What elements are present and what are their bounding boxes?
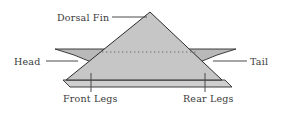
label-rear-legs: Rear Legs bbox=[183, 93, 234, 104]
underside-plank-shape bbox=[63, 80, 232, 87]
label-tail: Tail bbox=[250, 56, 268, 67]
label-front-legs: Front Legs bbox=[63, 93, 118, 104]
label-dorsal-fin: Dorsal Fin bbox=[57, 12, 109, 23]
anatomy-diagram bbox=[0, 0, 286, 115]
diagram-canvas: Dorsal Fin Head Tail Front Legs Rear Leg… bbox=[0, 0, 286, 115]
label-head: Head bbox=[14, 56, 40, 67]
